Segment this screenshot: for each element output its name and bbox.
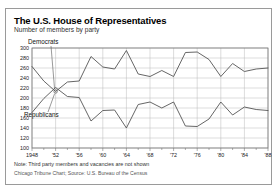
y-tick-label: 260 <box>20 65 29 71</box>
x-axis-ticks: 1948'52'56'60'64'68'72'76'80'84'88 <box>26 148 272 158</box>
chart-subtitle: Number of members by party <box>14 26 99 33</box>
chart-source: Chicago Tribune Chart; Source: U.S. Bure… <box>14 170 147 176</box>
y-tick-label: 140 <box>20 125 29 131</box>
x-tick-label: '88 <box>264 152 271 158</box>
x-tick-label: '56 <box>76 152 83 158</box>
x-tick-label: '80 <box>217 152 224 158</box>
x-tick-label: 1948 <box>26 152 38 158</box>
x-tick-label: '52 <box>52 152 59 158</box>
x-tick-label: '76 <box>194 152 201 158</box>
x-tick-label: '64 <box>123 152 130 158</box>
x-tick-label: '72 <box>170 152 177 158</box>
y-tick-label: 200 <box>20 95 29 101</box>
leader-line-democrats <box>51 46 55 89</box>
plot-area: 100120140160180200220240260280300 1948'5… <box>6 35 273 161</box>
leader-line-republicans <box>48 94 55 112</box>
y-tick-label: 280 <box>20 55 29 61</box>
x-tick-label: '84 <box>241 152 248 158</box>
y-tick-label: 120 <box>20 135 29 141</box>
line-chart: 100120140160180200220240260280300 1948'5… <box>6 35 273 161</box>
y-tick-label: 300 <box>20 45 29 51</box>
y-tick-label: 100 <box>20 145 29 151</box>
page-title: The U.S. House of Representatives <box>14 15 166 26</box>
chart-note: Note: Third party members and vacancies … <box>14 161 149 167</box>
x-tick-label: '60 <box>99 152 106 158</box>
x-tick-label: '68 <box>146 152 153 158</box>
gridlines <box>32 48 268 148</box>
series-label-republicans: Republicans <box>24 111 59 119</box>
chart-figure: The U.S. House of Representatives Number… <box>5 8 272 185</box>
y-axis-ticks: 100120140160180200220240260280300 <box>20 45 29 151</box>
series-label-democrats: Democrats <box>28 38 58 45</box>
y-tick-label: 240 <box>20 75 29 81</box>
y-tick-label: 220 <box>20 85 29 91</box>
